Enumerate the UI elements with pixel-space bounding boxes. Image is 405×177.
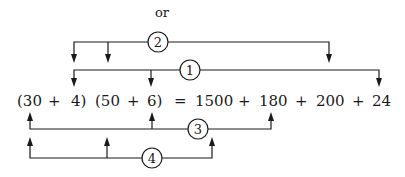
- equation-token: 4): [71, 92, 86, 110]
- foil-multiplication-diagram: or 2 1 (30 + 4) (50 + 6) = 1500 + 180 + …: [0, 0, 405, 177]
- equation-token: (50: [95, 92, 120, 110]
- equation-token: 200: [316, 92, 345, 110]
- equation-token: +: [127, 92, 140, 110]
- equation-token: (30: [17, 92, 42, 110]
- equation-token: +: [295, 92, 308, 110]
- arrow-up-icon: [149, 112, 155, 121]
- equation-token: =: [174, 92, 187, 110]
- equation-token: +: [48, 92, 61, 110]
- equation-token: 24: [372, 92, 391, 110]
- equation-token: +: [352, 92, 365, 110]
- arrow-up-icon: [104, 137, 110, 146]
- arrow-down-icon: [148, 78, 154, 87]
- arrow-up-icon: [27, 112, 33, 121]
- equation-token: +: [238, 92, 251, 110]
- arrow-down-icon: [71, 54, 77, 63]
- arrow-up-icon: [27, 137, 33, 146]
- arrow-down-icon: [326, 54, 332, 63]
- or-label: or: [155, 5, 170, 20]
- step-number: 2: [154, 35, 162, 50]
- bracket-2: 2: [71, 32, 332, 63]
- arrow-down-icon: [71, 78, 77, 87]
- arrow-up-icon: [268, 112, 274, 121]
- equation-token: 6): [147, 92, 162, 110]
- equation-token: 1500: [195, 92, 233, 110]
- bracket-4: 4: [27, 137, 215, 168]
- step-number: 1: [186, 63, 194, 78]
- bracket-3: 3: [27, 112, 274, 139]
- equation: (30 + 4) (50 + 6) = 1500 + 180 + 200 + 2…: [17, 92, 391, 110]
- arrow-down-icon: [105, 54, 111, 63]
- arrow-up-icon: [209, 137, 215, 146]
- arrow-down-icon: [376, 78, 382, 87]
- equation-token: 180: [259, 92, 288, 110]
- bracket-1: 1: [71, 60, 382, 87]
- step-number: 3: [194, 122, 202, 137]
- step-number: 4: [148, 151, 156, 166]
